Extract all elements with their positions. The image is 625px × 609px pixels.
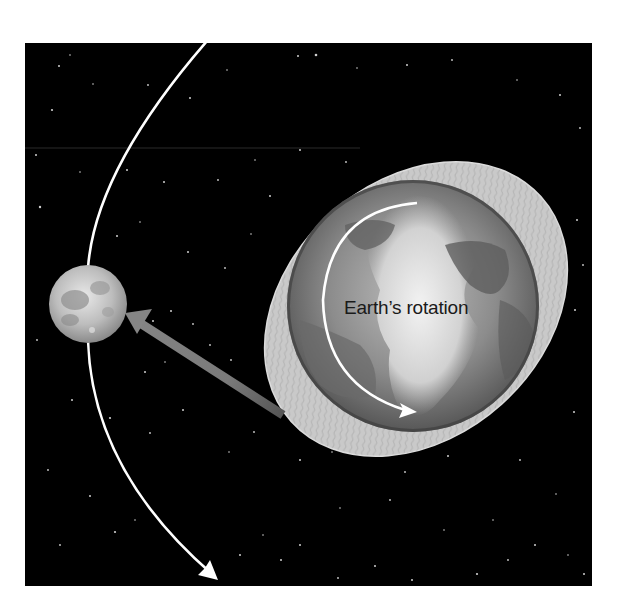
tidal-diagram: Earth’s rotation [0, 0, 625, 609]
moon [49, 265, 127, 343]
earth-rotation-label: Earth’s rotation [344, 297, 468, 319]
diagram-canvas [0, 0, 625, 609]
